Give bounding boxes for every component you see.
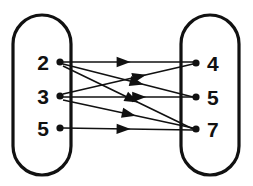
node-label-right-1: 5 [207,86,219,109]
mapping-diagram-canvas: 235457 [0,0,253,186]
node-label-right-2: 7 [207,118,219,141]
mapping-diagram-svg: 235457 [0,0,253,186]
node-label-right-0: 4 [207,52,219,75]
node-dot-right-4 [192,59,199,66]
edges-layer [63,57,193,134]
node-dot-right-5 [192,93,199,100]
arrowhead-icon [117,124,131,135]
node-label-left-0: 2 [37,51,49,74]
node-dot-right-7 [192,125,199,132]
node-dot-left-2 [56,58,63,65]
arrowhead-icon [121,108,137,121]
node-label-left-2: 5 [37,117,49,140]
arrowhead-icon [117,57,131,67]
node-dot-left-5 [56,124,63,131]
edge-3-to-7 [63,100,193,128]
edge-2-to-4 [63,57,193,67]
arrowhead-icon [132,92,146,102]
node-dot-left-3 [56,92,63,99]
edge-5-to-7 [63,124,193,135]
arrowhead-icon [131,70,147,83]
node-label-left-1: 3 [37,85,49,108]
